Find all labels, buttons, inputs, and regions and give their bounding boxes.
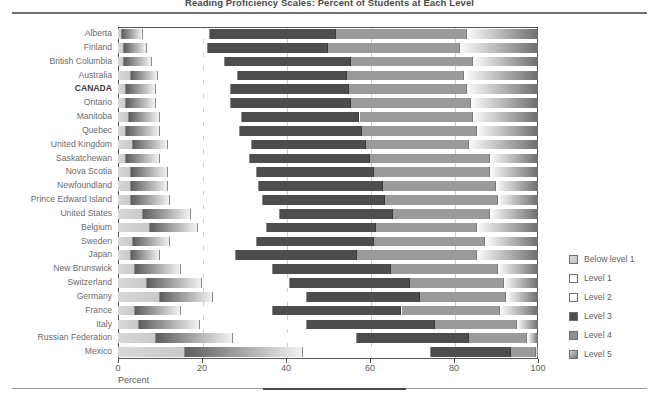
stacked-bar[interactable] <box>118 320 538 330</box>
legend-item[interactable]: Level 3 <box>569 307 657 326</box>
bar-segment <box>328 43 460 53</box>
stacked-bar[interactable] <box>118 292 538 302</box>
bar-row: Germany <box>0 290 659 304</box>
bar-segment <box>133 140 169 150</box>
bar-segment <box>118 292 160 302</box>
bar-segment <box>490 154 538 164</box>
bar-segment <box>257 237 375 247</box>
bar-segment <box>402 306 501 316</box>
bar-segment <box>131 195 171 205</box>
category-label: Switzerland <box>0 276 112 290</box>
stacked-bar[interactable] <box>118 29 538 39</box>
bar-segment <box>118 347 185 357</box>
bar-row: Ontario <box>0 96 659 110</box>
bar-segment <box>536 347 538 357</box>
bar-segment <box>143 209 191 219</box>
stacked-bar[interactable] <box>118 71 538 81</box>
x-axis-title: Percent <box>118 375 149 385</box>
bar-row: Mexico <box>0 345 659 359</box>
legend-swatch <box>569 312 578 321</box>
stacked-bar[interactable] <box>118 112 538 122</box>
bar-segment <box>385 195 498 205</box>
stacked-bar[interactable] <box>118 195 538 205</box>
bar-segment <box>118 333 156 343</box>
legend-item[interactable]: Level 2 <box>569 288 657 307</box>
stacked-bar[interactable] <box>118 154 538 164</box>
bar-segment <box>129 112 161 122</box>
stacked-bar[interactable] <box>118 264 538 274</box>
bar-segment <box>171 237 257 247</box>
bar-segment <box>198 223 267 233</box>
bar-segment <box>490 167 538 177</box>
bar-segment <box>118 320 139 330</box>
bar-row: Manitoba <box>0 110 659 124</box>
bar-segment <box>469 333 528 343</box>
category-label: CANADA <box>0 82 112 96</box>
bar-segment <box>160 126 240 136</box>
bar-segment <box>147 43 208 53</box>
bar-segment <box>374 167 490 177</box>
stacked-bar[interactable] <box>118 98 538 108</box>
legend-item[interactable]: Below level 1 <box>569 250 657 269</box>
bar-segment <box>160 250 236 260</box>
bar-segment <box>124 57 151 67</box>
stacked-bar[interactable] <box>118 237 538 247</box>
bar-segment <box>135 306 181 316</box>
bar-row: Switzerland <box>0 276 659 290</box>
bar-segment <box>477 126 538 136</box>
stacked-bar[interactable] <box>118 43 538 53</box>
bar-segment <box>210 29 336 39</box>
legend-label: Level 5 <box>584 345 612 364</box>
legend-item[interactable]: Level 1 <box>569 269 657 288</box>
chart-legend: Below level 1Level 1Level 2Level 3Level … <box>569 250 657 364</box>
stacked-bar[interactable] <box>118 347 538 357</box>
bar-row: Belgium <box>0 221 659 235</box>
bar-segment <box>307 292 420 302</box>
stacked-bar[interactable] <box>118 84 538 94</box>
bar-row: France <box>0 304 659 318</box>
legend-item[interactable]: Level 4 <box>569 326 657 345</box>
bar-segment <box>156 98 232 108</box>
bar-segment <box>122 29 143 39</box>
bar-segment <box>511 347 536 357</box>
bar-segment <box>200 320 307 330</box>
bar-segment <box>496 181 538 191</box>
bar-segment <box>257 167 375 177</box>
bar-segment <box>168 167 256 177</box>
stacked-bar[interactable] <box>118 333 538 343</box>
bar-segment <box>131 167 169 177</box>
stacked-bar[interactable] <box>118 181 538 191</box>
bar-segment <box>118 126 126 136</box>
legend-item[interactable]: Level 5 <box>569 345 657 364</box>
bar-segment <box>498 264 538 274</box>
bar-segment <box>202 278 290 288</box>
bar-row: Saskatchewan <box>0 152 659 166</box>
bar-segment <box>160 112 242 122</box>
category-label: United Kingdom <box>0 138 112 152</box>
stacked-bar[interactable] <box>118 223 538 233</box>
category-label: United States <box>0 207 112 221</box>
bar-segment <box>357 333 468 343</box>
bar-segment <box>498 195 538 205</box>
stacked-bar[interactable] <box>118 209 538 219</box>
category-label: New Brunswick <box>0 262 112 276</box>
bar-segment <box>383 181 496 191</box>
stacked-bar[interactable] <box>118 278 538 288</box>
bar-segment <box>118 250 131 260</box>
bar-segment <box>158 71 238 81</box>
bar-segment <box>280 209 393 219</box>
bar-segment <box>467 84 538 94</box>
bar-segment <box>500 306 538 316</box>
stacked-bar[interactable] <box>118 250 538 260</box>
bar-segment <box>252 140 365 150</box>
stacked-bar[interactable] <box>118 306 538 316</box>
bar-segment <box>126 84 155 94</box>
stacked-bar[interactable] <box>118 126 538 136</box>
bar-segment <box>225 57 351 67</box>
stacked-bar[interactable] <box>118 57 538 67</box>
top-rule <box>12 12 647 14</box>
stacked-bar[interactable] <box>118 140 538 150</box>
bar-segment <box>118 223 150 233</box>
stacked-bar[interactable] <box>118 167 538 177</box>
bar-segment <box>504 278 538 288</box>
